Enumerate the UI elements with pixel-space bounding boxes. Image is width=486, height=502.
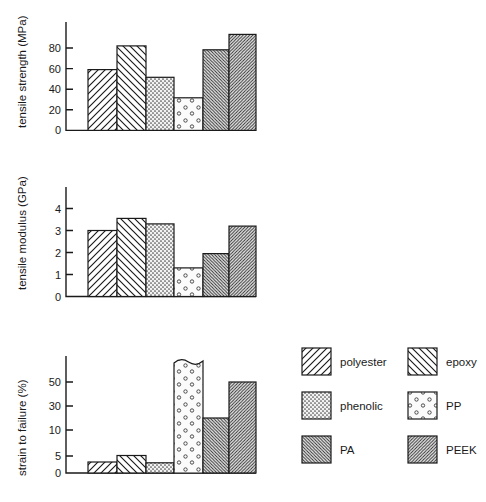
tick-label: 50	[49, 376, 61, 388]
bar-pp-broken	[174, 360, 203, 473]
legend-item-phenolic: phenolic	[302, 392, 383, 419]
bar-pp	[174, 268, 203, 297]
y-axis-label: tensile modulus (GPa)	[16, 176, 28, 290]
bar-phenolic	[146, 77, 174, 130]
bar-peek	[229, 382, 256, 473]
bar-peek	[229, 226, 256, 296]
legend-item-pp: PP	[408, 392, 462, 419]
tick-label: 60	[49, 63, 61, 75]
legend-label: epoxy	[446, 356, 477, 368]
bar-phenolic	[146, 463, 174, 473]
bar-epoxy	[117, 46, 146, 130]
bar-peek	[229, 34, 256, 130]
chart-tensile-strength: tensile strength (MPa) 80 60 40 20 0	[0, 0, 280, 160]
legend-item-peek: PEEK	[408, 436, 477, 463]
tick-label: 40	[49, 83, 61, 95]
legend-swatch-phenolic	[302, 392, 331, 419]
legend-swatch-pp	[408, 392, 437, 419]
legend-swatch-pa	[302, 436, 331, 463]
y-axis-ticks: 50 30 10 5 0	[49, 376, 73, 479]
bar-epoxy	[117, 218, 146, 296]
legend-swatch-peek	[408, 436, 437, 463]
figure-root: tensile strength (MPa) 80 60 40 20 0	[0, 0, 486, 502]
legend-swatch-epoxy	[408, 348, 437, 375]
chart-strain-to-failure: strain to failure (%) 50 30 10 5 0	[0, 336, 280, 502]
bar-phenolic	[146, 224, 174, 297]
legend-item-pa: PA	[302, 436, 355, 463]
tick-label: 5	[55, 450, 61, 462]
legend-label: polyester	[340, 356, 387, 368]
bar-epoxy	[117, 456, 146, 474]
bar-pa	[203, 50, 229, 131]
legend-label: phenolic	[340, 400, 383, 412]
legend-item-polyester: polyester	[302, 348, 387, 375]
bar-polyester	[88, 231, 117, 297]
y-axis-ticks: 80 60 40 20 0	[49, 42, 73, 136]
legend-label: PA	[340, 444, 355, 456]
tick-label: 30	[49, 400, 61, 412]
y-axis-label: tensile strength (MPa)	[16, 15, 28, 128]
legend-swatch-polyester	[302, 348, 331, 375]
tick-label: 3	[55, 225, 61, 237]
legend-item-epoxy: epoxy	[408, 348, 477, 375]
legend-label: PEEK	[446, 444, 477, 456]
tick-label: 4	[55, 203, 61, 215]
y-axis-ticks: 4 3 2 1 0	[55, 203, 73, 303]
bars	[88, 34, 256, 130]
tick-label: 2	[55, 247, 61, 259]
bar-polyester	[88, 462, 117, 473]
bars	[88, 360, 256, 473]
bar-polyester	[88, 70, 117, 131]
bar-pa	[203, 418, 229, 473]
legend: polyester epoxy phenolic PP PA	[296, 344, 486, 484]
tick-label: 20	[49, 104, 61, 116]
tick-label: 1	[55, 269, 61, 281]
bar-pp	[174, 98, 203, 131]
legend-label: PP	[446, 400, 462, 412]
tick-label: 10	[49, 424, 61, 436]
tick-label: 0	[55, 291, 61, 303]
tick-label: 0	[55, 124, 61, 136]
bars	[88, 218, 256, 296]
tick-label: 80	[49, 42, 61, 54]
y-axis-label: strain to failure (%)	[16, 379, 28, 476]
bar-pa	[203, 254, 229, 297]
tick-label: 0	[55, 467, 61, 479]
chart-tensile-modulus: tensile modulus (GPa) 4 3 2 1 0	[0, 168, 280, 318]
